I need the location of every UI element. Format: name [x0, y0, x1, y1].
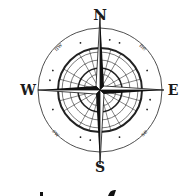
east-label: E	[168, 82, 179, 98]
north-label: N	[93, 6, 107, 24]
cropped-bottom-marks	[40, 190, 116, 196]
compass-rose: N S W E nw ne sw se	[0, 0, 191, 196]
northeast-label: ne	[138, 42, 149, 53]
southeast-label: se	[139, 128, 149, 138]
cardinal-points	[38, 16, 164, 164]
west-label: W	[19, 82, 36, 98]
northwest-label: nw	[52, 40, 64, 52]
southwest-label: sw	[51, 127, 62, 138]
south-label: S	[95, 159, 105, 175]
